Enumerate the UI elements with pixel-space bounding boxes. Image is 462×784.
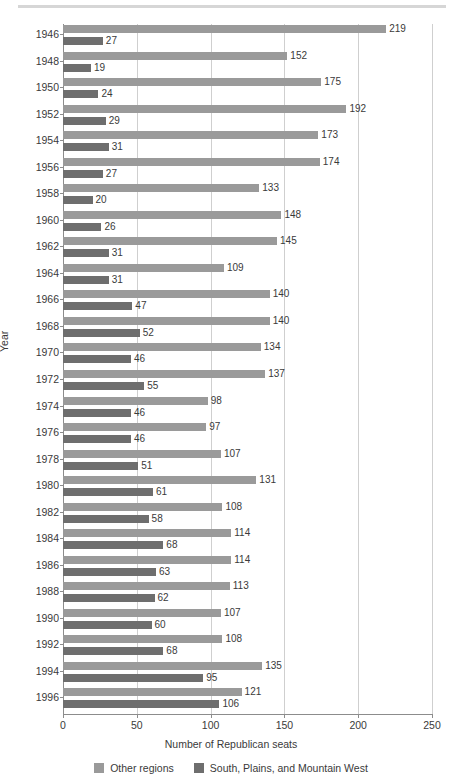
bar-light [63, 688, 242, 696]
bar-value-label: 174 [323, 157, 340, 167]
year-group: 198611463 [63, 555, 462, 582]
bar-value-label: 109 [227, 263, 244, 273]
y-tick-mark [60, 618, 63, 619]
x-axis-line [63, 714, 432, 715]
x-tick-label: 250 [423, 719, 441, 731]
bar-light [63, 317, 270, 325]
y-tick-label: 1978 [36, 453, 59, 465]
y-tick-mark [60, 591, 63, 592]
bar-dark [63, 90, 98, 98]
x-axis-title: Number of Republican seats [0, 738, 462, 750]
bar-dark [63, 674, 203, 682]
bar-dark [63, 594, 155, 602]
chart-legend: Other regionsSouth, Plains, and Mountain… [0, 762, 462, 774]
bar-light [63, 290, 270, 298]
bar-value-label: 140 [273, 316, 290, 326]
bar-dark [63, 302, 132, 310]
bar-light [63, 52, 287, 60]
y-tick-label: 1968 [36, 320, 59, 332]
bar-light [63, 131, 318, 139]
y-tick-mark [60, 379, 63, 380]
republican-seats-bar-chart: 1946219271948152191950175241952192291954… [0, 0, 462, 784]
year-group: 194815219 [63, 51, 462, 78]
x-tick-label: 0 [60, 719, 66, 731]
y-tick-label: 1962 [36, 240, 59, 252]
bar-value-label: 26 [104, 222, 115, 232]
y-tick-mark [60, 565, 63, 566]
bar-light [63, 158, 320, 166]
bar-value-label: 19 [94, 63, 105, 73]
y-tick-label: 1964 [36, 267, 59, 279]
y-tick-label: 1984 [36, 532, 59, 544]
y-tick-mark [60, 432, 63, 433]
bar-light [63, 25, 386, 33]
year-group: 197013446 [63, 342, 462, 369]
bar-dark [63, 64, 91, 72]
year-group: 196214531 [63, 236, 462, 263]
bar-value-label: 114 [234, 555, 250, 565]
y-tick-mark [60, 246, 63, 247]
bar-value-label: 107 [224, 449, 241, 459]
bar-dark [63, 541, 163, 549]
y-tick-label: 1958 [36, 187, 59, 199]
bar-light [63, 609, 221, 617]
year-group: 195219229 [63, 104, 462, 131]
legend-entry[interactable]: Other regions [94, 762, 174, 774]
bar-dark [63, 515, 149, 523]
bar-dark [63, 196, 93, 204]
bar-light [63, 662, 262, 670]
bar-value-label: 148 [284, 210, 301, 220]
bar-value-label: 62 [158, 593, 169, 603]
legend-entry[interactable]: South, Plains, and Mountain West [194, 762, 368, 774]
y-tick-mark [60, 671, 63, 672]
bar-light [63, 211, 281, 219]
bar-value-label: 46 [134, 354, 145, 364]
y-tick-mark [60, 512, 63, 513]
bar-value-label: 145 [280, 236, 297, 246]
x-tick-mark [432, 714, 433, 718]
y-tick-label: 1986 [36, 559, 59, 571]
y-tick-mark [60, 406, 63, 407]
bar-light [63, 264, 224, 272]
bar-value-label: 29 [109, 116, 120, 126]
bar-value-label: 31 [112, 275, 123, 285]
bar-dark [63, 223, 101, 231]
bar-dark [63, 647, 163, 655]
y-tick-label: 1974 [36, 400, 59, 412]
x-tick-mark [211, 714, 212, 718]
y-tick-label: 1982 [36, 506, 59, 518]
bar-value-label: 98 [211, 396, 222, 406]
bar-value-label: 137 [268, 369, 285, 379]
bar-value-label: 68 [166, 540, 177, 550]
y-tick-mark [60, 34, 63, 35]
bar-dark [63, 488, 153, 496]
legend-label: Other regions [110, 762, 174, 774]
bar-value-label: 68 [166, 646, 177, 656]
x-tick-mark [63, 714, 64, 718]
x-tick-mark [284, 714, 285, 718]
x-tick-label: 200 [349, 719, 367, 731]
y-tick-mark [60, 538, 63, 539]
bar-light [63, 397, 208, 405]
bar-dark [63, 37, 103, 45]
year-group: 196614047 [63, 289, 462, 316]
y-tick-mark [60, 220, 63, 221]
y-tick-mark [60, 193, 63, 194]
bar-dark [63, 382, 144, 390]
bar-value-label: 152 [290, 51, 307, 61]
bar-value-label: 47 [135, 301, 146, 311]
bar-light [63, 184, 259, 192]
y-tick-mark [60, 352, 63, 353]
year-group: 198013161 [63, 475, 462, 502]
legend-swatch-icon [94, 763, 104, 773]
bar-value-label: 113 [233, 581, 249, 591]
year-group: 195813320 [63, 183, 462, 210]
bar-dark [63, 355, 131, 363]
bar-dark [63, 409, 131, 417]
bar-light [63, 450, 221, 458]
year-group: 194621927 [63, 24, 462, 51]
bar-dark [63, 117, 106, 125]
bar-value-label: 63 [159, 567, 170, 577]
y-tick-mark [60, 140, 63, 141]
bar-light [63, 370, 265, 378]
